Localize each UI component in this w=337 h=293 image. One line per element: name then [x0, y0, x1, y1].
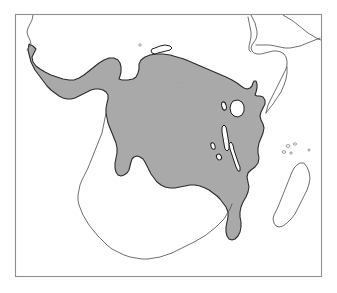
distribution-map-svg	[0, 0, 337, 293]
map-figure	[0, 0, 337, 293]
lake-victoria	[230, 100, 244, 117]
